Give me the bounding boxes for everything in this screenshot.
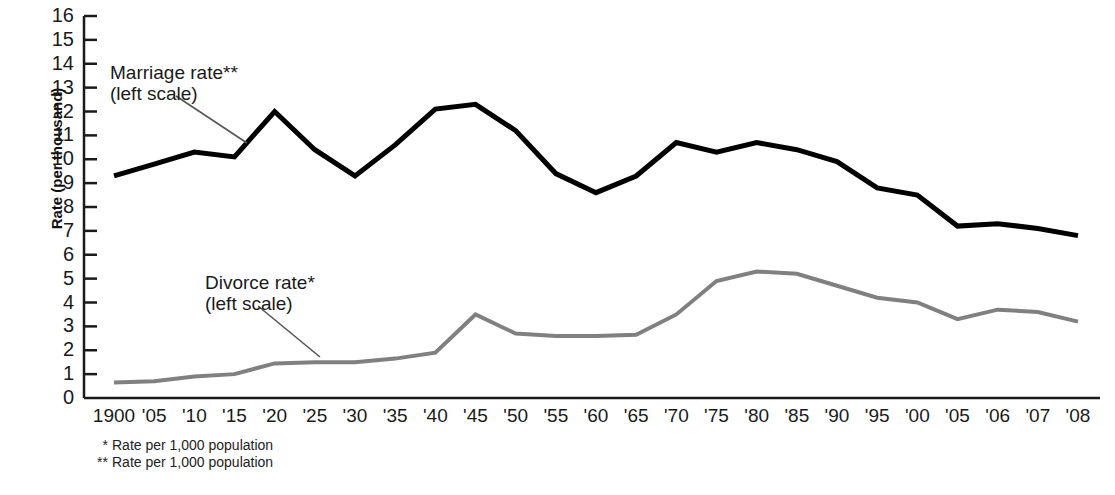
chart-footnotes: *Rate per 1,000 population**Rate per 1,0… xyxy=(86,437,273,471)
y-tick-label: 1 xyxy=(40,363,74,383)
series-line-marriage-rate xyxy=(114,104,1078,235)
footnote-row: *Rate per 1,000 population xyxy=(86,437,273,454)
footnote-row: **Rate per 1,000 population xyxy=(86,454,273,471)
y-tick-label: 3 xyxy=(40,315,74,335)
y-tick-label: 6 xyxy=(40,244,74,264)
chart-series-lines xyxy=(114,104,1078,382)
annotation-marriage-line1: Marriage rate** xyxy=(110,62,238,83)
annotation-divorce-line1: Divorce rate* xyxy=(205,272,315,293)
annotation-divorce-line2: (left scale) xyxy=(205,293,315,314)
x-tick-label: '08 xyxy=(1046,406,1110,426)
chart-tick-marks xyxy=(84,16,97,374)
chart-container: Rate (per thousand) 16151413121110987654… xyxy=(0,0,1115,495)
y-tick-label: 13 xyxy=(40,77,74,97)
y-tick-label: 16 xyxy=(40,5,74,25)
y-tick-label: 0 xyxy=(40,387,74,407)
y-tick-label: 8 xyxy=(40,196,74,216)
y-tick-label: 11 xyxy=(40,124,74,144)
y-tick-label: 12 xyxy=(40,101,74,121)
footnote-marker: ** xyxy=(86,454,108,471)
annotation-marriage-line2: (left scale) xyxy=(110,83,238,104)
y-tick-label: 9 xyxy=(40,172,74,192)
y-tick-label: 4 xyxy=(40,292,74,312)
footnote-marker: * xyxy=(86,437,108,454)
y-tick-label: 2 xyxy=(40,339,74,359)
y-tick-label: 15 xyxy=(40,29,74,49)
y-tick-label: 7 xyxy=(40,220,74,240)
footnote-text: Rate per 1,000 population xyxy=(112,437,273,453)
y-tick-label: 5 xyxy=(40,268,74,288)
annotation-divorce-rate: Divorce rate* (left scale) xyxy=(205,272,315,314)
y-tick-label: 10 xyxy=(40,148,74,168)
footnote-text: Rate per 1,000 population xyxy=(112,454,273,470)
y-tick-label: 14 xyxy=(40,53,74,73)
annotation-marriage-rate: Marriage rate** (left scale) xyxy=(110,62,238,104)
